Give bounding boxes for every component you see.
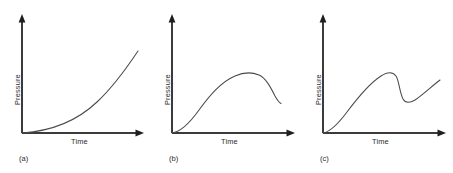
x-axis-arrowhead-a bbox=[136, 130, 145, 137]
x-axis-label-a: Time bbox=[71, 138, 88, 145]
pressure-curve-a bbox=[22, 51, 138, 133]
y-axis-arrowhead-b bbox=[169, 14, 176, 23]
chart-panel-c: Pressure Time (c) bbox=[302, 0, 453, 173]
x-axis-arrowhead-b bbox=[287, 130, 296, 137]
y-axis-label-a: Pressure bbox=[14, 74, 21, 105]
x-axis-arrowhead-c bbox=[438, 130, 447, 137]
figure-three-pressure-time-curves: Pressure Time (a) Pressure Time (b) Pres… bbox=[0, 0, 453, 173]
chart-svg-a bbox=[0, 0, 151, 173]
chart-panel-b: Pressure Time (b) bbox=[151, 0, 302, 173]
y-axis-arrowhead-a bbox=[19, 14, 26, 23]
chart-panel-a: Pressure Time (a) bbox=[0, 0, 151, 173]
pressure-curve-b bbox=[172, 73, 281, 133]
chart-svg-b bbox=[151, 0, 302, 173]
y-axis-arrowhead-c bbox=[320, 14, 327, 23]
x-axis-label-c: Time bbox=[372, 138, 389, 145]
y-axis-label-c: Pressure bbox=[315, 74, 322, 105]
y-axis-label-b: Pressure bbox=[164, 74, 171, 105]
pressure-curve-c bbox=[323, 73, 440, 133]
x-axis-label-b: Time bbox=[221, 138, 238, 145]
panel-caption-a: (a) bbox=[19, 155, 28, 163]
panel-caption-c: (c) bbox=[320, 155, 329, 163]
chart-svg-c bbox=[302, 0, 453, 173]
panel-caption-b: (b) bbox=[169, 155, 178, 163]
